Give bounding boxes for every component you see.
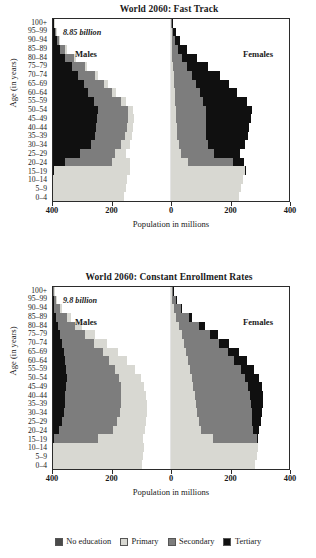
bar-segment-tertiary — [206, 132, 247, 141]
bar-segment-secondary — [174, 80, 196, 89]
pyramid-females-side — [171, 175, 289, 184]
pyramid-males-side — [53, 114, 171, 123]
bar-segment-secondary — [176, 114, 206, 123]
bar-segment-tertiary — [199, 322, 204, 331]
pyramid-males-side — [53, 123, 171, 132]
bar-segment-secondary — [174, 71, 192, 80]
bar-segment-tertiary — [203, 97, 247, 106]
bar-segment-primary — [56, 296, 57, 305]
chart-panel-constant-enrollment: World 2060: Constant Enrollment Rates Ag… — [0, 268, 316, 530]
pyramid-males-side — [53, 304, 171, 313]
bar-segment-secondary — [64, 348, 103, 357]
bar-segment-primary — [171, 184, 241, 193]
bar-segment-secondary — [175, 88, 200, 97]
bar-segment-tertiary — [53, 149, 80, 158]
bar-segment-primary — [128, 106, 133, 115]
bar-segment-tertiary — [245, 166, 246, 175]
plot-area-2: 9.8 billion Males Females — [52, 286, 290, 470]
bar-segment-primary — [53, 443, 144, 452]
pyramid-females-side — [171, 426, 289, 435]
bar-segment-tertiary — [200, 88, 238, 97]
pyramid-females-side — [171, 391, 289, 400]
bar-segment-tertiary — [53, 408, 64, 417]
bar-segment-tertiary — [187, 62, 208, 71]
pyramid-females-side — [171, 443, 289, 452]
bar-segment-secondary — [182, 330, 210, 339]
pyramid-males-side — [53, 417, 171, 426]
y-axis-tick-label: 70–74 — [0, 339, 50, 348]
bar-segment-tertiary — [53, 97, 94, 106]
bar-segment-secondary — [188, 158, 233, 167]
pyramid-males-side — [53, 184, 171, 193]
bar-segment-primary — [120, 408, 147, 417]
y-axis-tick-label: 90–94 — [0, 303, 50, 312]
pyramid-males-side — [53, 166, 171, 175]
bar-segment-tertiary — [53, 71, 78, 80]
bar-segment-secondary — [196, 400, 251, 409]
bar-segment-primary — [128, 114, 134, 123]
y-axis-tick-label: 65–69 — [0, 347, 50, 356]
population-annotation-2: 9.8 billion — [63, 296, 97, 305]
bar-segment-primary — [171, 408, 197, 417]
bar-segment-primary — [112, 158, 130, 167]
pyramid-males-side — [53, 356, 171, 365]
bar-segment-secondary — [66, 382, 121, 391]
pyramid-females-side — [171, 184, 289, 193]
pyramid-females-side — [171, 149, 289, 158]
pyramid-row — [53, 408, 289, 417]
bar-segment-tertiary — [173, 28, 175, 37]
bar-segment-primary — [53, 452, 143, 461]
legend-swatch-icon — [55, 538, 63, 546]
bar-segment-tertiary — [53, 62, 72, 71]
x-axis-tick-label: 200 — [224, 474, 237, 483]
bar-segment-tertiary — [53, 123, 96, 132]
bar-segment-primary — [171, 417, 199, 426]
bar-segment-secondary — [80, 149, 115, 158]
bar-segment-primary — [171, 339, 184, 348]
bar-segment-tertiary — [253, 426, 259, 435]
pyramid-males-side — [53, 382, 171, 391]
bar-segment-tertiary — [53, 382, 66, 391]
pyramid-females-side — [171, 330, 289, 339]
bar-segment-primary — [115, 149, 126, 158]
pyramid-males-side — [53, 158, 171, 167]
pyramid-females-side — [171, 434, 289, 443]
pyramid-males-side — [53, 443, 171, 452]
pyramid-females-side — [171, 348, 289, 357]
bar-segment-secondary — [58, 322, 76, 331]
pyramid-males-side — [53, 460, 171, 469]
bar-segment-secondary — [199, 417, 253, 426]
bar-segment-primary — [85, 62, 87, 71]
bar-segment-secondary — [98, 106, 128, 115]
bar-segment-primary — [94, 339, 107, 348]
plot-area-1: 8.85 billion Males Females — [52, 18, 290, 202]
bar-segment-secondary — [65, 158, 112, 167]
bar-segment-primary — [171, 158, 188, 167]
pyramid-females-side — [171, 28, 289, 37]
bar-segment-tertiary — [196, 80, 229, 89]
legend-label: Secondary — [179, 537, 214, 546]
females-label-1: Females — [243, 49, 273, 59]
bar-segment-primary — [171, 149, 181, 158]
bar-segment-secondary — [184, 339, 219, 348]
bar-segment-secondary — [188, 356, 234, 365]
population-annotation-1: 8.85 billion — [63, 28, 101, 37]
pyramid-row — [53, 460, 289, 469]
bar-segment-tertiary — [53, 417, 62, 426]
bar-segment-primary — [171, 452, 257, 461]
bar-segment-secondary — [179, 322, 200, 331]
bar-segment-primary — [60, 304, 62, 313]
bar-segment-tertiary — [192, 71, 220, 80]
bar-segment-secondary — [91, 140, 122, 149]
bar-segment-tertiary — [53, 80, 84, 89]
pyramid-row — [53, 304, 289, 313]
pyramid-females-side — [171, 356, 289, 365]
bar-segment-tertiary — [53, 400, 65, 409]
bar-segment-primary — [171, 460, 255, 469]
pyramid-males-side — [53, 322, 171, 331]
bar-segment-secondary — [181, 149, 214, 158]
y-axis-tick-label: 20–24 — [0, 426, 50, 435]
bar-segment-tertiary — [53, 106, 98, 115]
bar-segment-primary — [171, 140, 179, 149]
pyramid-row — [53, 140, 289, 149]
